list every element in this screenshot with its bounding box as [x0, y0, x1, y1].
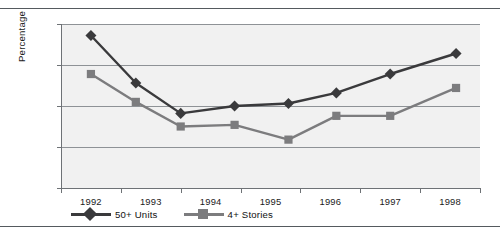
square-marker-icon [177, 122, 185, 130]
y-axis-line [61, 24, 62, 188]
x-axis-line [61, 188, 480, 189]
diamond-marker-icon [283, 98, 294, 109]
top-divider-rule [0, 8, 500, 9]
series-line-2 [91, 74, 456, 140]
square-marker-icon [87, 70, 95, 78]
square-marker-icon [132, 98, 140, 106]
square-marker-icon [284, 136, 292, 144]
series-line-1 [91, 35, 456, 113]
bottom-divider-rule [0, 226, 500, 227]
diamond-marker-icon [451, 48, 462, 59]
diamond-marker-icon [331, 87, 342, 98]
legend-label-4-stories: 4+ Stories [228, 209, 273, 220]
x-tick-mark [480, 188, 481, 193]
diamond-marker-icon [385, 69, 396, 80]
legend-item-4-stories[interactable]: 4+ Stories [184, 208, 273, 220]
legend-item-50-units[interactable]: 50+ Units [71, 208, 158, 220]
y-axis-title: Percentage [16, 0, 27, 62]
square-marker-icon [386, 112, 394, 120]
square-marker-icon [332, 112, 340, 120]
chart-legend: 50+ Units 4+ Stories [61, 205, 480, 223]
legend-label-50-units: 50+ Units [115, 209, 158, 220]
series-overlay [61, 24, 480, 188]
plot-surface: 051015201992199319941995199619971998 [61, 24, 480, 188]
square-marker-icon [452, 84, 460, 92]
diamond-marker-icon [71, 208, 111, 220]
plot-area: 051015201992199319941995199619971998 [61, 24, 480, 188]
chart-figure: 051015201992199319941995199619971998 Per… [0, 0, 500, 236]
diamond-marker-icon [229, 100, 240, 111]
square-marker-icon [184, 208, 224, 220]
square-marker-icon [230, 121, 238, 129]
